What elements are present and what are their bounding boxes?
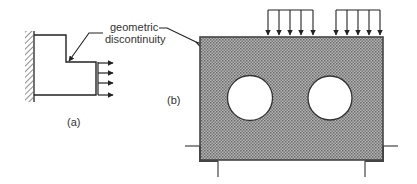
panel-a-label: (a): [67, 116, 80, 128]
stress-concentration-diagram: (a) geometric discontinuity (b): [0, 0, 417, 184]
distributed-load-group-2: [336, 10, 380, 35]
leader-to-step: [69, 33, 103, 61]
fixed-wall-hatch: [25, 31, 33, 102]
stepped-bar-outline: [34, 35, 96, 95]
hole-right: [308, 76, 352, 120]
annotation-line2: discontinuity: [105, 33, 166, 45]
tension-load-arrows: [98, 62, 113, 95]
panel-b: (b): [167, 10, 398, 177]
annotation-line1: geometric: [110, 21, 159, 33]
panel-a: (a): [25, 31, 113, 128]
distributed-load-group-1: [268, 10, 313, 35]
hole-left: [228, 76, 273, 121]
panel-b-label: (b): [167, 94, 180, 106]
